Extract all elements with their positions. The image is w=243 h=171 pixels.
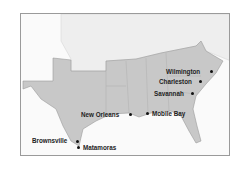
city-label: New Orleans	[81, 111, 119, 118]
city-label: Brownsville	[32, 137, 67, 144]
city-label: Mobile Bay	[152, 110, 185, 117]
city-marker-icon	[191, 92, 194, 95]
city-marker-icon	[210, 70, 213, 73]
city-marker-icon	[77, 146, 80, 149]
map-svg	[21, 14, 230, 156]
city-label: Matamoras	[83, 144, 116, 151]
city-marker-icon	[199, 80, 202, 83]
city-marker-icon	[129, 113, 132, 116]
city-label: Charleston	[159, 78, 192, 85]
city-marker-icon	[76, 140, 79, 143]
map-frame	[20, 13, 230, 156]
city-label: Wilmington	[166, 68, 200, 75]
city-label: Savannah	[154, 90, 184, 97]
city-marker-icon	[146, 112, 149, 115]
